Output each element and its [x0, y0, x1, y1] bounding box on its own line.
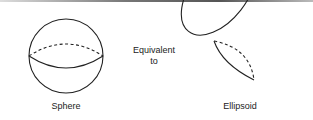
diagram-canvas: Sphere Equivalent to Ellipsoid [0, 0, 313, 120]
ellipsoid-section-back [214, 41, 254, 80]
ellipsoid-outline [166, 0, 270, 49]
ellipsoid-section-front [214, 41, 254, 80]
equivalent-text: Equivalent [122, 45, 186, 55]
ellipsoid-label: Ellipsoid [210, 101, 270, 111]
to-text: to [122, 56, 186, 66]
sphere-outline [29, 19, 103, 93]
sphere-equator-back [29, 44, 103, 56]
sphere-equator-front [29, 56, 103, 68]
sphere-label: Sphere [40, 101, 92, 111]
